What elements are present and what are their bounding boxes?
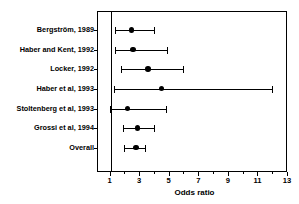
row-tick <box>94 50 97 51</box>
study-label: Stoltenberg et al, 1993 <box>17 105 94 113</box>
study-label: Overall <box>69 144 94 152</box>
ci-upper-cap <box>183 66 184 73</box>
x-axis-minor-tick <box>213 172 214 174</box>
odds-ratio-point <box>145 66 151 72</box>
study-label: Locker, 1992 <box>50 65 94 73</box>
x-axis-minor-tick <box>243 172 244 174</box>
odds-ratio-point <box>133 145 139 151</box>
ci-lower-cap <box>110 106 111 113</box>
ci-lower-cap <box>124 145 125 152</box>
confidence-interval-line <box>110 109 166 110</box>
ci-lower-cap <box>115 47 116 54</box>
ci-lower-cap <box>121 66 122 73</box>
ci-upper-cap <box>166 106 167 113</box>
confidence-interval-line <box>121 69 183 70</box>
x-axis-tick-label: 1 <box>100 176 120 185</box>
row-tick <box>94 30 97 31</box>
row-tick <box>94 89 97 90</box>
x-axis-tick-label: 3 <box>129 176 149 185</box>
study-label: Grossi et al, 1994 <box>34 124 94 132</box>
x-axis-tick-label: 13 <box>277 176 297 185</box>
x-axis-title-text: Odds ratio <box>174 188 214 197</box>
study-label-column: Bergström, 1989Haber and Kent, 1992Locke… <box>0 0 96 204</box>
ci-upper-cap <box>154 27 155 34</box>
forest-plot-figure: Bergström, 1989Haber and Kent, 1992Locke… <box>0 0 299 204</box>
x-axis-tick-label: 11 <box>247 176 267 185</box>
confidence-interval-line <box>115 30 154 31</box>
study-label: Haber and Kent, 1992 <box>20 46 94 54</box>
row-tick <box>94 109 97 110</box>
x-axis-minor-tick <box>154 172 155 174</box>
row-tick <box>94 128 97 129</box>
odds-ratio-point <box>135 125 141 131</box>
x-axis-minor-tick <box>124 172 125 174</box>
x-axis-tick-label: 9 <box>218 176 238 185</box>
ci-upper-cap <box>167 47 168 54</box>
ci-lower-cap <box>114 86 115 93</box>
study-label: Haber et al, 1993 <box>36 85 94 93</box>
x-axis-minor-tick <box>183 172 184 174</box>
confidence-interval-line <box>115 50 168 51</box>
ci-lower-cap <box>115 27 116 34</box>
ci-upper-cap <box>145 145 146 152</box>
reference-line-or-1 <box>111 12 112 171</box>
odds-ratio-point <box>130 47 136 53</box>
study-label: Bergström, 1989 <box>37 26 94 34</box>
row-tick <box>94 148 97 149</box>
x-axis-tick-label: 5 <box>159 176 179 185</box>
row-tick <box>94 69 97 70</box>
x-axis-tick-label: 7 <box>188 176 208 185</box>
confidence-interval-line <box>114 89 272 90</box>
ci-lower-cap <box>123 125 124 132</box>
ci-upper-cap <box>154 125 155 132</box>
x-axis-minor-tick <box>272 172 273 174</box>
x-axis-title: Odds ratio <box>0 188 299 197</box>
ci-upper-cap <box>272 86 273 93</box>
